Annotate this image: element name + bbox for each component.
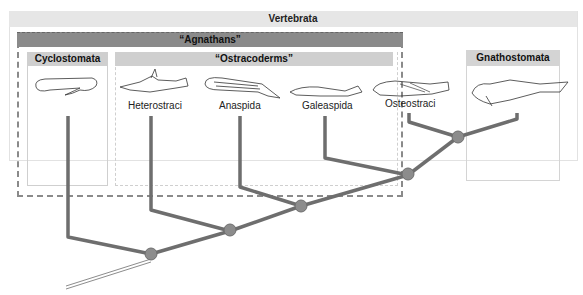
- anaspida-illustration: [205, 78, 280, 98]
- cladogram-tree: [0, 0, 583, 295]
- tree-branches: [68, 113, 517, 254]
- osteostraci-illustration: [373, 81, 449, 96]
- node-3: [295, 200, 307, 212]
- node-4: [402, 168, 414, 180]
- hagfish-illustration: [36, 78, 97, 95]
- node-2: [224, 224, 236, 236]
- heterostraci-illustration: [120, 69, 188, 92]
- node-5: [452, 131, 464, 143]
- root-stem: [66, 259, 151, 289]
- node-vertebrata: [145, 248, 157, 260]
- galeaspida-illustration: [290, 86, 362, 96]
- placoderm-illustration: [472, 80, 568, 106]
